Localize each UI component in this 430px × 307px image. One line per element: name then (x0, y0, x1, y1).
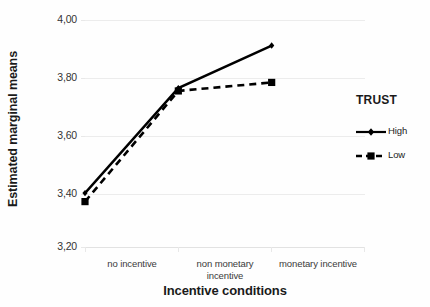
x-tick-mark (85, 247, 86, 252)
y-tick-label-340: 3,40 (31, 187, 77, 199)
legend-swatch-solid-line-icon (356, 124, 386, 136)
legend-entry-high: High (356, 121, 430, 139)
x-axis-baseline (85, 247, 365, 248)
series-markers-high (82, 42, 274, 196)
x-category-label-monetary-incentive: monetary incentive (268, 258, 368, 270)
y-tick-label-380: 3,80 (31, 71, 77, 83)
legend-title: TRUST (356, 93, 430, 107)
plot-area (85, 20, 365, 247)
data-point-marker (268, 79, 275, 86)
y-tick-label-360: 3,60 (31, 129, 77, 141)
data-point-marker (81, 198, 88, 205)
data-point-marker (175, 87, 182, 94)
series-line-high (85, 46, 272, 194)
legend-label-low: Low (388, 149, 405, 160)
x-tick-mark (178, 247, 179, 252)
y-axis-title-text: Estimated marginal means (6, 51, 20, 207)
y-tick-label-320: 3,20 (31, 240, 77, 252)
y-axis-title: Estimated marginal means (0, 0, 26, 258)
x-category-line: monetary incentive (268, 258, 368, 270)
series-line-low (85, 82, 272, 201)
x-category-label-no-incentive: no incentive (85, 258, 179, 270)
x-category-line: non monetary (178, 258, 272, 270)
x-category-line: incentive (178, 270, 272, 282)
y-tick-label-400: 4,00 (31, 13, 77, 25)
x-category-line: no incentive (85, 258, 179, 270)
x-tick-mark (271, 247, 272, 252)
x-category-label-non-monetary-incentive: non monetary incentive (178, 258, 272, 282)
series-plot (85, 20, 365, 247)
x-axis-title: Incentive conditions (85, 283, 365, 298)
data-point-marker (269, 42, 274, 48)
x-tick-mark (364, 247, 365, 252)
series-markers-low (81, 79, 275, 205)
line-chart: Estimated marginal means 4,00 3,80 3,60 … (0, 0, 430, 307)
legend-entry-low: Low (356, 145, 430, 163)
legend: TRUST High Low (356, 93, 430, 169)
legend-label-high: High (388, 125, 407, 136)
legend-swatch-dashed-line-icon (356, 148, 386, 160)
